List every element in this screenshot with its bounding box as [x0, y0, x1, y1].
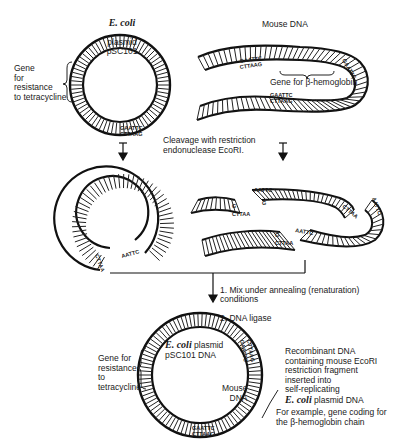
bottom-plasmid-title-italic: E. coli [165, 339, 192, 350]
hemoglobin-gene-label: Gene for β-hemoglobin [270, 78, 357, 88]
svg-text:G: G [262, 200, 266, 206]
svg-text:AATTC: AATTC [295, 227, 314, 236]
mouse-dna-title: Mouse DNA [262, 20, 308, 30]
bottom-gene-label: Gene for resistance to tetracycline [98, 354, 141, 392]
svg-text:G: G [232, 203, 236, 209]
mouse-dna-label: Mouse DNA [222, 384, 248, 403]
arrow-step1-left [119, 143, 127, 160]
top-plasmid-title: E. coli plasmid pSC101 [94, 8, 150, 57]
svg-text:G: G [275, 232, 279, 238]
recombinant-label-tail: plasmid DNA [312, 395, 364, 405]
recombinant-label: Recombinant DNA containing mouse EcoRI r… [285, 347, 377, 405]
top-plasmid-title-italic: E. coli [109, 17, 136, 28]
svg-text:CTTAAG: CTTAAG [192, 431, 215, 437]
step1-label: Cleavage with restriction endonuclease E… [163, 136, 256, 155]
top-plasmid-title-text: plasmid pSC101 [107, 37, 138, 57]
svg-text:AATTC: AATTC [121, 248, 140, 259]
top-gene-label: Gene for resistance to tetracycline [14, 64, 66, 102]
svg-text:AATTC: AATTC [254, 187, 272, 193]
bottom-plasmid-title: E. coli plasmid pSC101 DNA [165, 340, 223, 360]
svg-text:CTTAAG: CTTAAG [120, 131, 143, 137]
arrow-step1-right [279, 143, 287, 160]
example-label: For example, gene coding for the β-hemog… [276, 408, 387, 427]
step2-item-2: 2. DNA ligase [220, 314, 394, 324]
recombinant-label-italic: E. coli [285, 394, 312, 405]
svg-text:CTTAA: CTTAA [275, 240, 293, 246]
svg-text:CTTAA: CTTAA [232, 211, 250, 217]
svg-text:CTTAAG: CTTAAG [270, 98, 293, 104]
step2-item-1: 1. Mix under annealing (renaturation) co… [220, 286, 394, 305]
svg-text:AATTC: AATTC [371, 196, 383, 215]
recombinant-label-text: Recombinant DNA containing mouse EcoRI r… [285, 346, 377, 394]
step2-list: 1. Mix under annealing (renaturation) co… [220, 276, 394, 333]
